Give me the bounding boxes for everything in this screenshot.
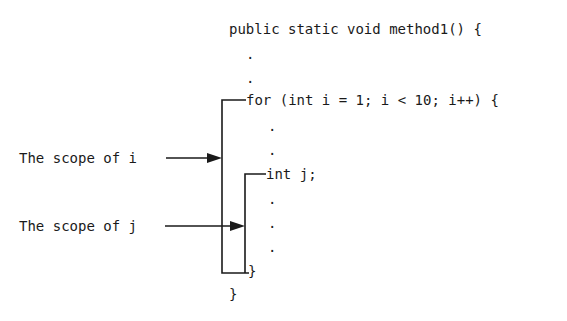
for-loop-header: for (int i = 1; i < 10; i++) {	[246, 92, 499, 108]
scope-i-label: The scope of i	[19, 150, 137, 166]
declaration-j: int j;	[266, 166, 317, 182]
ellipsis-dot: .	[268, 215, 276, 231]
ellipsis-dot: .	[246, 70, 254, 86]
scope-i-arrowhead-icon	[207, 153, 222, 163]
scope-j-arrowhead-icon	[230, 221, 245, 231]
closing-brace-inner: }	[248, 263, 256, 279]
ellipsis-dot: .	[268, 191, 276, 207]
ellipsis-dot: .	[246, 46, 254, 62]
ellipsis-dot: .	[268, 118, 276, 134]
ellipsis-dot: .	[268, 142, 276, 158]
scope-j-bracket	[245, 174, 266, 273]
method-signature: public static void method1() {	[229, 21, 482, 37]
scope-j-label: The scope of j	[19, 218, 137, 234]
closing-brace-outer: }	[229, 286, 237, 302]
ellipsis-dot: .	[268, 239, 276, 255]
